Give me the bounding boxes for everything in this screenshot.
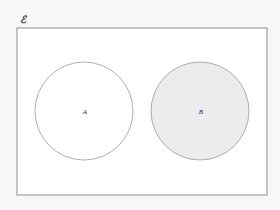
venn-diagram-canvas: ℰ A B (0, 0, 280, 210)
set-b-label: B (199, 108, 204, 116)
venn-diagram: ℰ A B (0, 0, 280, 210)
set-a-label: A (82, 108, 88, 116)
